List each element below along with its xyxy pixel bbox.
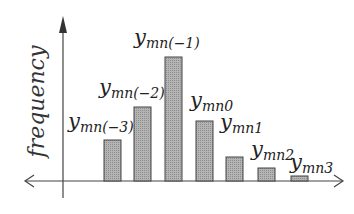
bar-4 xyxy=(226,157,243,181)
y-axis-label: frequency xyxy=(24,58,49,158)
y-axis-arrow-icon xyxy=(59,16,67,33)
bar-label-mn-minus2: ymn(−2) xyxy=(99,77,165,98)
bar-label-mn-minus1: ymn(−1) xyxy=(134,27,200,48)
bar-label-mn1: ymn1 xyxy=(220,112,263,133)
bar-2 xyxy=(165,57,182,181)
bar-label-mn-minus3: ymn(−3) xyxy=(68,111,134,132)
bar-1 xyxy=(134,107,151,181)
bar-5 xyxy=(258,168,275,181)
bar-0 xyxy=(104,140,121,181)
bar-3 xyxy=(196,121,213,181)
bar-label-mn0: ymn0 xyxy=(190,90,233,111)
bar-label-mn2: ymn2 xyxy=(251,139,294,160)
bar-6 xyxy=(291,176,308,181)
bar-label-mn3: ymn3 xyxy=(290,152,333,173)
